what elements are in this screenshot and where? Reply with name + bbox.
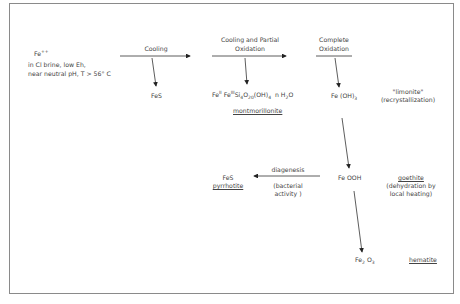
limonite-name: "limonite" (378, 88, 438, 96)
montmorillonite-formula: FeII FeIIISi4O20(OH)4 n H2O (212, 91, 293, 99)
step-complete-oxidation-label-2: Oxidation (314, 45, 354, 53)
diagenesis-note-2: activity ) (268, 190, 308, 198)
goethite-note-1: (dehydration by (380, 182, 442, 190)
feoh3-product: Fe (OH)3 (331, 92, 357, 100)
fe2o3-product: Fe2 O3 (355, 256, 375, 264)
goethite-note-2: local heating) (380, 190, 442, 198)
start-ion: Fe++ (34, 50, 49, 58)
hematite-name: hematite (409, 256, 437, 264)
step-partial-oxidation-label-1: Cooling and Partial (210, 36, 290, 44)
start-ion-symbol: Fe (34, 50, 41, 57)
step-complete-oxidation-label-1: Complete (314, 36, 354, 44)
diagenesis-note-1: (bacterial (268, 182, 308, 190)
start-condition-2: near neutral pH, T > 56° C (28, 70, 111, 78)
start-condition-1: in Cl brine, low Eh, (28, 61, 86, 69)
pyrrhotite-formula: FeS (210, 174, 246, 182)
step-partial-oxidation-label-2: Oxidation (210, 45, 290, 53)
pyrrhotite-name: pyrrhotite (210, 182, 246, 190)
diagenesis-label: diagenesis (268, 166, 308, 174)
fes-product: FeS (151, 92, 162, 100)
step-cooling-label: Cooling (136, 45, 176, 53)
feooh-product: Fe OOH (338, 174, 361, 182)
goethite-name: goethite (386, 174, 436, 182)
limonite-note: (recrystallization) (378, 96, 438, 104)
start-ion-charge: ++ (41, 49, 49, 54)
montmorillonite-name: montmorillonite (233, 107, 282, 115)
